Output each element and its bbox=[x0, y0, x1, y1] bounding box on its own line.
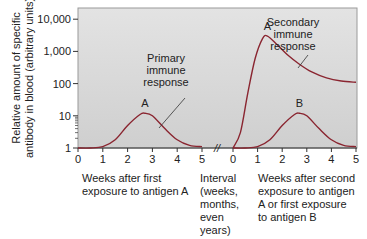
antibody-response-chart: 1101001,00010,000Relative amount of spec… bbox=[0, 0, 367, 239]
x-axis-label-line: years) bbox=[200, 224, 231, 236]
y-axis-label: Relative amount of specificantibody in b… bbox=[10, 0, 35, 158]
y-tick-label: 10 bbox=[59, 110, 71, 122]
x-tick-label: 1 bbox=[255, 153, 261, 165]
annotation-line: immune bbox=[146, 64, 185, 76]
x-tick-label: 3 bbox=[304, 153, 310, 165]
x-axis-label-line: (weeks, bbox=[200, 185, 238, 197]
peak-label-B: B bbox=[296, 97, 303, 109]
y-tick-label: 100 bbox=[53, 78, 71, 90]
x-tick-label: 2 bbox=[279, 153, 285, 165]
x-axis-label-line: exposure to antigen A bbox=[82, 185, 189, 197]
x-axis-label-first-exposure: Weeks after firstexposure to antigen A bbox=[82, 172, 189, 197]
y-tick-label: 10,000 bbox=[37, 13, 71, 25]
axis-break-mark: // bbox=[213, 142, 221, 154]
x-tick-label: 0 bbox=[230, 153, 236, 165]
x-tick-label: 0 bbox=[75, 153, 81, 165]
y-axis: 1101001,00010,000Relative amount of spec… bbox=[10, 0, 78, 158]
x-axis-label-second-exposure: Weeks after secondexposure to antigenA o… bbox=[258, 172, 355, 223]
annotation-line: Primary bbox=[147, 52, 185, 64]
annotation-line: response bbox=[143, 76, 188, 88]
annotation-0: Primaryimmuneresponse bbox=[143, 52, 188, 88]
x-axis-label-line: exposure to antigen bbox=[258, 185, 355, 197]
x-tick-label: 3 bbox=[149, 153, 155, 165]
x-axis-label-line: Weeks after second bbox=[258, 172, 355, 184]
y-tick-label: 1,000 bbox=[43, 45, 71, 57]
x-axis-label-line: to antigen B bbox=[258, 211, 317, 223]
x-tick-label: 4 bbox=[328, 153, 334, 165]
y-axis-label-line: antibody in blood (arbitrary units) bbox=[23, 0, 35, 158]
annotation-line: response bbox=[270, 40, 315, 52]
y-tick-label: 1 bbox=[65, 142, 71, 154]
peak-label-A: A bbox=[141, 97, 149, 109]
y-axis-label-line: Relative amount of specific bbox=[10, 12, 22, 144]
x-axis-label-line: A or first exposure bbox=[258, 198, 347, 210]
x-axis-label-line: even bbox=[200, 211, 224, 223]
x-tick-label: 5 bbox=[353, 153, 359, 165]
x-tick-label: 4 bbox=[174, 153, 180, 165]
x-axis-label-interval: Interval(weeks,months,evenyears) bbox=[200, 172, 239, 236]
plot-area bbox=[78, 8, 357, 148]
x-axis-label-line: months, bbox=[200, 198, 239, 210]
x-axis-label-line: Weeks after first bbox=[82, 172, 161, 184]
annotation-line: Secondary bbox=[267, 16, 320, 28]
x-tick-label: 5 bbox=[199, 153, 205, 165]
annotation-line: immune bbox=[273, 28, 312, 40]
annotation-1: Secondaryimmuneresponse bbox=[267, 16, 320, 52]
x-tick-label: 1 bbox=[100, 153, 106, 165]
x-tick-label: 2 bbox=[125, 153, 131, 165]
x-axes: 012345012345//Weeks after firstexposure … bbox=[75, 142, 359, 236]
x-axis-label-line: Interval bbox=[200, 172, 236, 184]
